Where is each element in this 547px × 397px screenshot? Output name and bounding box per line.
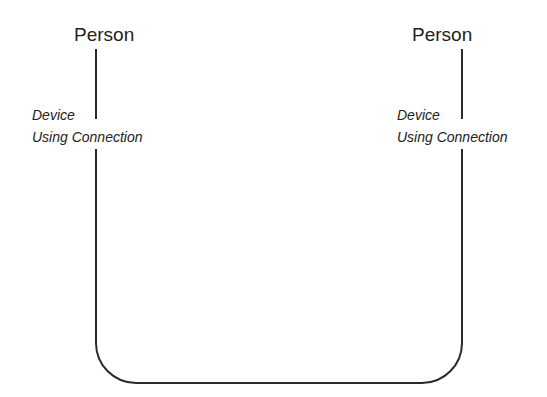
diagram-canvas: Person Device Using Connection Person De…	[0, 0, 547, 397]
u-connector-line	[96, 149, 462, 383]
connection-lines	[0, 0, 547, 397]
device-left-line2: Using Connection	[32, 126, 143, 148]
device-right-label: Device Using Connection	[397, 104, 508, 148]
device-right-line1: Device	[397, 104, 508, 126]
device-right-line2: Using Connection	[397, 126, 508, 148]
person-left-label: Person	[74, 24, 134, 46]
device-left-line1: Device	[32, 104, 143, 126]
person-right-label: Person	[412, 24, 472, 46]
device-left-label: Device Using Connection	[32, 104, 143, 148]
